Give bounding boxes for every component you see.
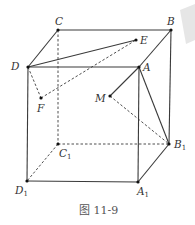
point-A (137, 65, 140, 68)
point-A1 (136, 180, 139, 183)
label-B: B (166, 15, 175, 27)
label-D1: D1 (14, 184, 28, 198)
point-B (169, 28, 172, 31)
edge-D1-A1 (27, 181, 138, 182)
label-E: E (139, 34, 148, 46)
edge-B-B1 (169, 30, 171, 144)
point-C1 (56, 142, 59, 145)
label-C: C (55, 15, 63, 27)
edge-A1-B1 (138, 144, 169, 182)
edge-D-F (28, 67, 41, 98)
label-D: D (10, 60, 20, 72)
label-F: F (36, 102, 45, 114)
edge-D-C (28, 30, 58, 67)
figure-caption: 图 11-9 (79, 204, 118, 217)
label-M: M (94, 92, 106, 104)
label-C1: C1 (59, 147, 72, 161)
label-A: A (142, 61, 151, 73)
watermark (180, 4, 195, 44)
point-F (39, 96, 42, 99)
point-C (56, 28, 59, 31)
label-A1: A1 (136, 185, 149, 199)
edge-D-E (28, 40, 136, 67)
point-D1 (25, 179, 28, 182)
hidden-edges (27, 30, 169, 181)
edge-A-B1 (139, 67, 169, 144)
edge-D-D1 (27, 67, 28, 181)
visible-edges (27, 30, 171, 182)
label-B1: B1 (173, 138, 186, 152)
cube-diagram: C B E D A M F C1 B1 D1 A1 图 11-9 (0, 0, 195, 225)
point-M (108, 94, 111, 97)
edge-C1-D1 (27, 144, 58, 181)
edge-A-A1 (138, 67, 139, 182)
point-B1 (167, 142, 170, 145)
point-E (134, 38, 137, 41)
edge-A-M (110, 67, 139, 96)
edge-F-E (41, 40, 136, 98)
point-D (26, 65, 29, 68)
vertices (25, 28, 172, 183)
